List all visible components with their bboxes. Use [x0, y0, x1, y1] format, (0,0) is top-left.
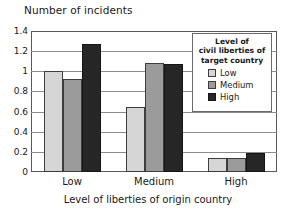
x-axis-tick-label: High — [225, 176, 248, 187]
legend-entries: LowMediumHigh — [197, 67, 267, 103]
legend-title-line: Level of — [197, 37, 267, 46]
y-axis-tick-label: 0.8 — [14, 86, 28, 96]
x-axis-tick-label: Low — [62, 176, 82, 187]
y-axis-tick-label: 0 — [22, 167, 28, 177]
y-axis-tick-label: 1.2 — [14, 46, 28, 56]
legend-swatch-high-icon — [208, 93, 216, 101]
legend-title: Level ofcivil liberties oftarget country — [197, 37, 267, 65]
legend-item-label: Low — [220, 68, 237, 78]
gridline — [31, 152, 277, 153]
x-axis-title: Level of liberties of origin country — [0, 194, 296, 205]
legend-item-high[interactable]: High — [208, 91, 267, 103]
legend-item-label: High — [220, 92, 239, 102]
y-axis-tick-label: 0.6 — [14, 107, 28, 117]
y-axis-tick-label: 0.2 — [14, 147, 28, 157]
legend-item-medium[interactable]: Medium — [208, 79, 267, 91]
legend-title-line: target country — [197, 56, 267, 65]
legend: Level ofcivil liberties oftarget country… — [192, 33, 272, 112]
legend-swatch-medium-icon — [208, 81, 216, 89]
y-axis-tick-label: 0.4 — [14, 127, 28, 137]
legend-item-low[interactable]: Low — [208, 67, 267, 79]
x-axis-tick-label: Medium — [134, 176, 174, 187]
bar-chart: Number of incidents 00.20.40.60.811.21.4… — [0, 0, 296, 214]
y-axis-tick-label: 1.4 — [14, 26, 28, 36]
y-axis-tick-label: 1 — [22, 66, 28, 76]
chart-title: Number of incidents — [24, 4, 133, 16]
legend-swatch-low-icon — [208, 69, 216, 77]
legend-title-line: civil liberties of — [197, 46, 267, 55]
legend-item-label: Medium — [220, 80, 254, 90]
gridline — [31, 132, 277, 133]
